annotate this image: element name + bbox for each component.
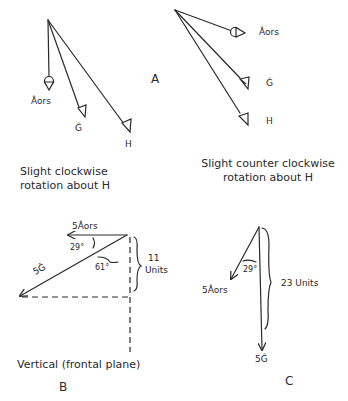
h-head-icon <box>239 113 248 125</box>
g-vector-arrow <box>259 227 262 350</box>
caption-line2: rotation about H <box>223 171 313 184</box>
height-brace <box>134 237 141 291</box>
g-vector-line <box>48 20 80 110</box>
panel-b: 5Âors 29° 61° 5Ĝ 11 Units Vertical (fron… <box>17 220 168 394</box>
label-height-unit: Units <box>145 265 168 275</box>
g-head-icon <box>240 77 249 89</box>
caption-line1: Slight counter clockwise <box>201 157 335 170</box>
aors-head-icon <box>231 28 246 38</box>
aors-head-icon <box>45 77 54 91</box>
label-h: H <box>125 139 132 149</box>
label-5g: 5Ĝ <box>255 353 268 364</box>
caption-line1: Slight clockwise <box>20 165 108 178</box>
label-length: 23 Units <box>281 278 319 288</box>
label-5aors: 5Âors <box>72 220 98 231</box>
vector-diagram: Âors Ĝ H Slight clockwise rotation about… <box>0 0 348 401</box>
label-angle-29: 29° <box>70 243 84 252</box>
label-height-value: 11 <box>148 253 159 263</box>
aors-vector-line <box>48 20 49 77</box>
h-vector-line <box>175 10 240 113</box>
label-aors: Âors <box>31 95 51 106</box>
g-vector-line <box>175 10 240 78</box>
angle-arc-29 <box>93 238 95 248</box>
length-brace <box>262 228 271 329</box>
caption-vertical-frontal-plane: Vertical (frontal plane) <box>17 358 140 371</box>
panel-letter-a: A <box>151 72 160 86</box>
label-g: Ĝ <box>75 122 82 133</box>
label-angle-61: 61° <box>95 263 109 272</box>
caption-line2: rotation about H <box>20 179 110 192</box>
angle-arc-29 <box>243 260 256 262</box>
panel-letter-b: B <box>59 380 67 394</box>
label-aors: Âors <box>259 26 279 37</box>
panel-c: 29° 5Âors 23 Units 5Ĝ C <box>202 227 319 388</box>
label-angle-29: 29° <box>243 265 257 274</box>
label-h: H <box>266 116 273 126</box>
angle-arc-61 <box>98 257 118 263</box>
aors-vector-line <box>175 10 232 31</box>
h-head-icon <box>122 119 131 132</box>
panel-a-right: Âors Ĝ H Slight counter clockwise rotati… <box>175 10 335 184</box>
panel-letter-c: C <box>285 374 293 388</box>
panel-a-left: Âors Ĝ H Slight clockwise rotation about… <box>20 20 132 192</box>
label-5g: 5Ĝ <box>31 261 48 277</box>
label-5aors: 5Âors <box>202 284 228 295</box>
label-g: Ĝ <box>266 77 273 88</box>
